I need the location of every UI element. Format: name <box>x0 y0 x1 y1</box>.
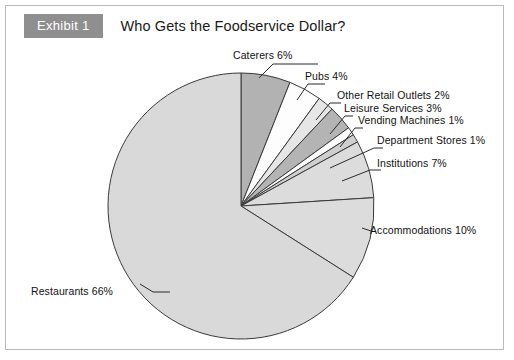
pie-label-caterers: Caterers 6% <box>233 49 292 61</box>
pie-label-vending-machines: Vending Machines 1% <box>358 114 464 126</box>
pie-chart: Caterers 6% Pubs 4% Other Retail Outlets… <box>0 0 514 360</box>
pie-label-accommodations: Accommodations 10% <box>370 224 476 236</box>
pie-label-department-stores: Department Stores 1% <box>377 134 485 146</box>
pie-label-leisure-services: Leisure Services 3% <box>344 102 442 114</box>
pie-label-institutions: Institutions 7% <box>377 157 447 169</box>
pie-label-restaurants: Restaurants 66% <box>31 285 113 297</box>
pie-label-pubs: Pubs 4% <box>305 70 348 82</box>
pie-label-other-retail-outlets: Other Retail Outlets 2% <box>337 89 450 101</box>
pie-slice-group <box>108 73 374 339</box>
